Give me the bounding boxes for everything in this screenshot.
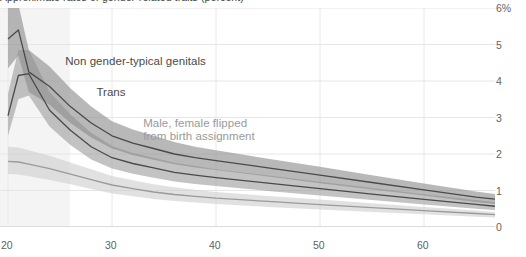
series-label: Non gender-typical genitals <box>65 54 206 68</box>
x-tick-label: 50 <box>313 240 325 251</box>
chart-canvas <box>0 8 495 227</box>
chart-root: Approximate rates of gender-related trai… <box>0 0 526 257</box>
y-tick-label: 0 <box>496 222 524 232</box>
chart-title: Approximate rates of gender-related trai… <box>0 0 430 3</box>
x-tick-label: 40 <box>209 240 221 251</box>
series-label: from birth assignment <box>143 129 255 143</box>
plot-area <box>0 8 495 227</box>
series-label: Trans <box>96 85 125 99</box>
y-tick-label: 2 <box>496 149 524 159</box>
x-tick-label: 20 <box>1 240 13 251</box>
x-tick-label: 60 <box>417 240 429 251</box>
y-tick-label: 4 <box>496 76 524 86</box>
y-tick-label: 3 <box>496 113 524 123</box>
y-tick-label: 1 <box>496 186 524 196</box>
x-tick-label: 30 <box>105 240 117 251</box>
y-tick-label: 6% <box>496 3 524 13</box>
y-tick-label: 5 <box>496 40 524 50</box>
